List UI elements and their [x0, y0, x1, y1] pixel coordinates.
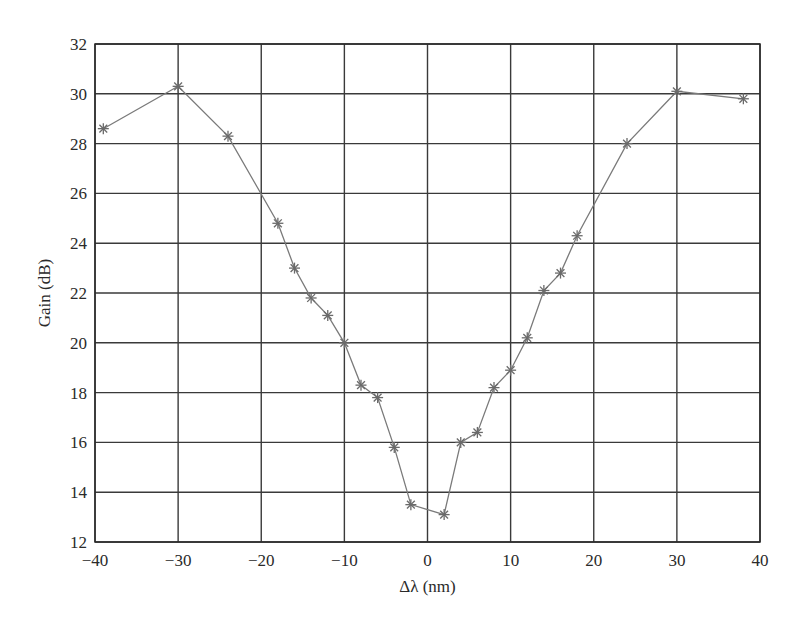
y-tick-label: 24 — [70, 234, 88, 253]
x-tick-label: −40 — [82, 551, 109, 570]
x-tick-label: −10 — [331, 551, 358, 570]
gain-vs-wavelength-chart: 1214161820222426283032 −40−30−20−1001020… — [0, 0, 809, 634]
x-tick-label: 40 — [752, 551, 769, 570]
x-tick-label: −20 — [248, 551, 275, 570]
gain-series-line — [103, 86, 743, 514]
y-tick-label: 18 — [70, 384, 87, 403]
y-tick-label: 20 — [70, 334, 87, 353]
data-point-marker — [738, 93, 749, 104]
data-point-marker — [356, 380, 367, 391]
y-tick-label: 26 — [70, 184, 87, 203]
data-point-marker — [505, 365, 516, 376]
data-point-marker — [472, 427, 483, 438]
data-point-marker — [455, 437, 466, 448]
data-point-marker — [572, 230, 583, 241]
x-tick-label: 20 — [585, 551, 602, 570]
data-point-marker — [538, 285, 549, 296]
x-tick-label: −30 — [165, 551, 192, 570]
data-point-marker — [489, 382, 500, 393]
y-tick-label: 12 — [70, 533, 87, 552]
data-point-marker — [339, 337, 350, 348]
data-point-marker — [306, 292, 317, 303]
grid-lines — [95, 44, 760, 542]
data-point-marker — [289, 263, 300, 274]
y-tick-label: 32 — [70, 35, 87, 54]
y-tick-label: 30 — [70, 85, 87, 104]
x-tick-label: 10 — [502, 551, 519, 570]
x-axis-ticks: −40−30−20−10010203040 — [82, 551, 769, 570]
x-tick-label: 30 — [668, 551, 685, 570]
y-tick-label: 16 — [70, 433, 87, 452]
y-tick-label: 22 — [70, 284, 87, 303]
y-axis-ticks: 1214161820222426283032 — [70, 35, 88, 552]
y-axis-label: Gain (dB) — [35, 259, 54, 327]
y-tick-label: 14 — [70, 483, 88, 502]
data-point-marker — [173, 81, 184, 92]
data-point-marker — [405, 499, 416, 510]
data-point-marker — [671, 86, 682, 97]
data-point-marker — [372, 392, 383, 403]
data-point-marker — [223, 131, 234, 142]
data-point-marker — [622, 138, 633, 149]
data-point-marker — [389, 442, 400, 453]
gain-series-markers — [98, 81, 749, 520]
data-point-marker — [272, 218, 283, 229]
data-point-marker — [439, 509, 450, 520]
data-point-marker — [522, 332, 533, 343]
y-tick-label: 28 — [70, 135, 87, 154]
x-axis-label: Δλ (nm) — [399, 577, 455, 596]
data-point-marker — [322, 310, 333, 321]
data-point-marker — [98, 123, 109, 134]
data-point-marker — [555, 268, 566, 279]
x-tick-label: 0 — [423, 551, 432, 570]
